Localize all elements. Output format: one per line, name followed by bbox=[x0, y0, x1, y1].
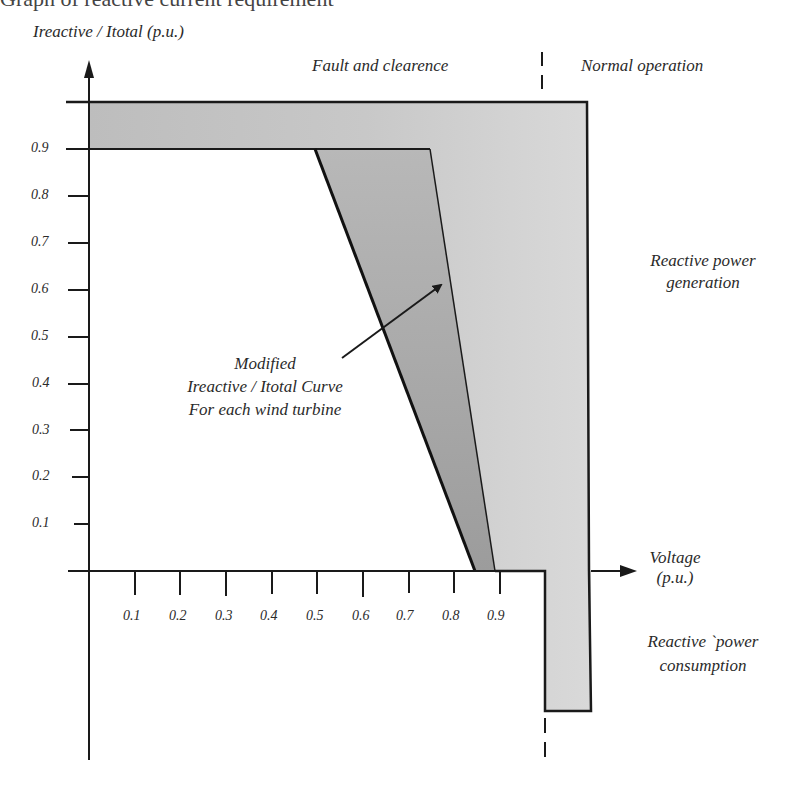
y-tick-label: 0.6 bbox=[31, 281, 49, 297]
x-tick-label: 0.3 bbox=[215, 608, 233, 624]
x-tick-label: 0.2 bbox=[169, 608, 187, 624]
x-tick-label: 0.7 bbox=[396, 608, 414, 624]
y-tick-label: 0.3 bbox=[32, 422, 50, 438]
reactive-consumption-label: Reactive `power consumption bbox=[628, 630, 778, 678]
annotation-line1: Modified bbox=[150, 352, 380, 375]
region-fault-label: Fault and clearence bbox=[312, 56, 448, 76]
x-tick-label: 0.4 bbox=[260, 608, 278, 624]
x-axis-arrow-icon bbox=[620, 565, 637, 577]
reactive-consumption-line2: consumption bbox=[628, 654, 778, 678]
annotation-line3: For each wind turbine bbox=[150, 398, 380, 421]
x-axis-label: Voltage (p.u.) bbox=[640, 548, 710, 588]
annotation-line2: Ireactive / Itotal Curve bbox=[150, 375, 380, 398]
modified-curve-annotation: Modified Ireactive / Itotal Curve For ea… bbox=[150, 352, 380, 421]
y-axis-label: Ireactive / Itotal (p.u.) bbox=[33, 22, 184, 42]
reactive-generation-label: Reactive power generation bbox=[628, 250, 778, 294]
x-axis-label-line1: Voltage bbox=[640, 548, 710, 568]
y-tick-label: 0.1 bbox=[32, 515, 50, 531]
region-normal-label: Normal operation bbox=[581, 56, 703, 76]
x-tick-label: 0.9 bbox=[487, 608, 505, 624]
reactive-generation-line2: generation bbox=[628, 272, 778, 294]
x-tick-label: 0.5 bbox=[306, 608, 324, 624]
x-tick-label: 0.6 bbox=[352, 608, 370, 624]
y-tick-label: 0.9 bbox=[31, 140, 49, 156]
x-axis-label-line2: (p.u.) bbox=[640, 568, 710, 588]
y-tick-label: 0.4 bbox=[32, 375, 50, 391]
y-ticks bbox=[68, 196, 89, 524]
y-tick-label: 0.7 bbox=[31, 234, 49, 250]
x-tick-label: 0.1 bbox=[123, 608, 141, 624]
y-axis-arrow-icon bbox=[84, 60, 94, 78]
x-ticks bbox=[135, 571, 500, 597]
y-tick-label: 0.2 bbox=[32, 468, 50, 484]
reactive-consumption-line1: Reactive `power bbox=[628, 630, 778, 654]
y-tick-label: 0.5 bbox=[31, 328, 49, 344]
x-tick-label: 0.8 bbox=[442, 608, 460, 624]
reactive-generation-line1: Reactive power bbox=[628, 250, 778, 272]
y-tick-label: 0.8 bbox=[31, 187, 49, 203]
